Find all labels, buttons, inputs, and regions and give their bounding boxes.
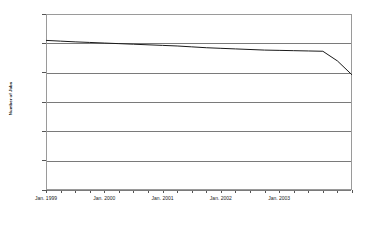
x-axis-tick-label: Jan. 1999: [35, 195, 57, 201]
x-axis-tick-label: Jan. 2001: [152, 195, 174, 201]
y-axis-title: Number of Jobs: [8, 68, 13, 130]
gridline: [47, 190, 351, 191]
x-axis-tick-label: Jan. 2000: [93, 195, 115, 201]
x-axis-tick-mark: [352, 190, 353, 193]
x-axis-tick-label: Jan. 2002: [210, 195, 232, 201]
line-chart: Number of Jobs 270,000250,000230,000210,…: [0, 0, 369, 226]
series-line-number-of-jobs: [46, 40, 352, 74]
x-axis-tick-label: Jan. 2003: [268, 195, 290, 201]
series-layer: [46, 14, 352, 190]
